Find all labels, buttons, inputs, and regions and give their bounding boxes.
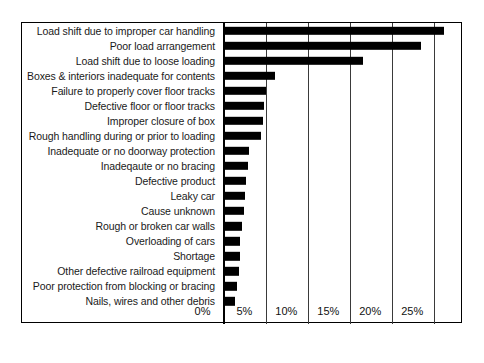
bar xyxy=(225,192,245,200)
category-label: Failure to properly cover floor tracks xyxy=(51,85,215,96)
category-row: Boxes & interiors inadequate for content… xyxy=(22,68,221,83)
bar-chart: Load shift due to improper car handlingP… xyxy=(0,0,484,363)
category-row: Nails, wires and other debris xyxy=(22,294,221,309)
category-row: Poor protection from blocking or bracing xyxy=(22,279,221,294)
bar-row xyxy=(225,113,462,128)
bar-row xyxy=(225,158,462,173)
bar-row xyxy=(225,128,462,143)
bar xyxy=(225,56,363,64)
category-label: Leaky car xyxy=(170,191,215,202)
x-tick-label: 25% xyxy=(401,305,423,318)
bar xyxy=(225,117,264,125)
bar-row xyxy=(225,173,462,188)
category-label: Improper closure of box xyxy=(107,115,215,126)
category-row: Defective floor or floor tracks xyxy=(22,98,221,113)
category-row: Cause unknown xyxy=(22,204,221,219)
bar xyxy=(225,237,241,245)
category-label: Inadeqaute or no bracing xyxy=(101,160,215,171)
category-label: Inadequate or no doorway protection xyxy=(47,145,215,156)
category-label: Cause unknown xyxy=(141,206,215,217)
bar xyxy=(225,71,275,79)
bar xyxy=(225,26,445,34)
category-label: Rough handling during or prior to loadin… xyxy=(29,130,215,141)
bar-row xyxy=(225,204,462,219)
plot-area xyxy=(225,23,462,324)
category-row: Improper closure of box xyxy=(22,113,221,128)
category-row: Leaky car xyxy=(22,189,221,204)
category-row: Rough or broken car walls xyxy=(22,219,221,234)
bar-row xyxy=(225,279,462,294)
bar xyxy=(225,132,261,140)
bar xyxy=(225,252,240,260)
bar xyxy=(225,207,244,215)
bar-row xyxy=(225,264,462,279)
chart-frame: Load shift due to improper car handlingP… xyxy=(21,22,462,323)
x-tick-label: 20% xyxy=(359,305,381,318)
bar-row xyxy=(225,68,462,83)
bar xyxy=(225,162,248,170)
category-label: Overloading of cars xyxy=(126,236,215,247)
category-label: Load shift due to loose loading xyxy=(76,55,215,66)
category-row: Other defective railroad equipment xyxy=(22,264,221,279)
category-row: Inadeqaute or no bracing xyxy=(22,158,221,173)
bar xyxy=(225,177,247,185)
category-row: Load shift due to loose loading xyxy=(22,53,221,68)
category-row: Defective product xyxy=(22,173,221,188)
category-label: Rough or broken car walls xyxy=(96,221,215,232)
bar-row xyxy=(225,249,462,264)
bar xyxy=(225,41,421,49)
x-tick-label: 5% xyxy=(236,305,252,318)
x-tick-label: 0% xyxy=(195,305,211,318)
bar-row xyxy=(225,219,462,234)
bar xyxy=(225,282,238,290)
bar-row xyxy=(225,234,462,249)
bar-row xyxy=(225,83,462,98)
category-label: Defective floor or floor tracks xyxy=(84,100,215,111)
bar xyxy=(225,222,243,230)
bar-row xyxy=(225,98,462,113)
category-row: Rough handling during or prior to loadin… xyxy=(22,128,221,143)
category-row: Overloading of cars xyxy=(22,234,221,249)
x-axis-tick-labels: 0%5%10%15%20%25% xyxy=(203,303,440,323)
category-label: Shortage xyxy=(173,251,215,262)
category-label: Defective product xyxy=(135,175,215,186)
category-label: Poor load arrangement xyxy=(110,40,215,51)
bar-row xyxy=(225,38,462,53)
bar-row xyxy=(225,143,462,158)
category-row: Failure to properly cover floor tracks xyxy=(22,83,221,98)
bar xyxy=(225,147,249,155)
category-row: Shortage xyxy=(22,249,221,264)
category-label: Boxes & interiors inadequate for content… xyxy=(27,70,215,81)
bar xyxy=(225,102,264,110)
category-label-column: Load shift due to improper car handlingP… xyxy=(22,23,221,324)
category-label: Other defective railroad equipment xyxy=(57,266,215,277)
category-label: Poor protection from blocking or bracing xyxy=(33,281,215,292)
bar-row xyxy=(225,53,462,68)
bar xyxy=(225,267,239,275)
category-row: Load shift due to improper car handling xyxy=(22,23,221,38)
bar-series xyxy=(225,23,462,324)
bar xyxy=(225,87,267,95)
bar-row xyxy=(225,189,462,204)
x-tick-label: 10% xyxy=(275,305,297,318)
x-tick-label: 15% xyxy=(317,305,339,318)
category-label: Load shift due to improper car handling xyxy=(37,25,215,36)
category-label-list: Load shift due to improper car handlingP… xyxy=(22,23,221,324)
bar-row xyxy=(225,23,462,38)
category-row: Inadequate or no doorway protection xyxy=(22,143,221,158)
category-row: Poor load arrangement xyxy=(22,38,221,53)
